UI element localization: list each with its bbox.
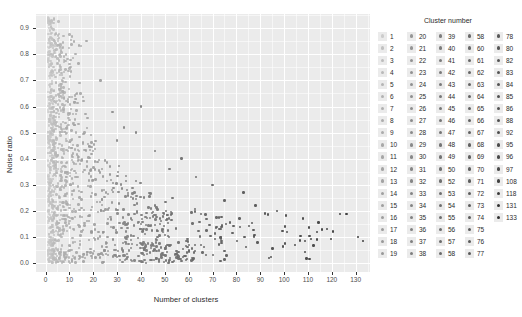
legend-item[interactable]: 70 bbox=[465, 163, 494, 175]
legend-item[interactable]: 47 bbox=[436, 127, 465, 139]
legend-item[interactable]: 40 bbox=[436, 42, 465, 54]
legend-item[interactable]: 95 bbox=[494, 139, 522, 151]
legend-item[interactable]: 8 bbox=[378, 115, 407, 127]
legend-item[interactable]: 76 bbox=[465, 236, 494, 248]
legend-item[interactable]: 27 bbox=[407, 115, 436, 127]
legend-item[interactable]: 131 bbox=[494, 199, 522, 211]
legend-item[interactable]: 49 bbox=[436, 151, 465, 163]
legend-item[interactable]: 32 bbox=[407, 175, 436, 187]
legend-item[interactable]: 80 bbox=[494, 42, 522, 54]
legend-item[interactable]: 62 bbox=[465, 66, 494, 78]
legend-item[interactable]: 48 bbox=[436, 139, 465, 151]
legend-item[interactable]: 2 bbox=[378, 42, 407, 54]
legend-item[interactable]: 58 bbox=[465, 30, 494, 42]
legend-item[interactable]: 61 bbox=[465, 54, 494, 66]
legend-item[interactable]: 56 bbox=[436, 224, 465, 236]
legend-item[interactable]: 1 bbox=[378, 30, 407, 42]
legend-item[interactable]: 21 bbox=[407, 42, 436, 54]
legend-item[interactable]: 14 bbox=[378, 187, 407, 199]
legend-item[interactable]: 12 bbox=[378, 163, 407, 175]
legend-column: 58606162636465666768697071727374757677 bbox=[465, 30, 494, 260]
legend-item[interactable]: 69 bbox=[465, 151, 494, 163]
legend-item[interactable]: 23 bbox=[407, 66, 436, 78]
legend-item[interactable]: 37 bbox=[407, 236, 436, 248]
legend-item[interactable]: 65 bbox=[465, 103, 494, 115]
legend-item[interactable]: 50 bbox=[436, 163, 465, 175]
legend-item[interactable]: 3 bbox=[378, 54, 407, 66]
legend-item[interactable]: 75 bbox=[465, 224, 494, 236]
legend-item[interactable]: 18 bbox=[378, 236, 407, 248]
legend-item[interactable]: 5 bbox=[378, 78, 407, 90]
legend-item[interactable]: 17 bbox=[378, 224, 407, 236]
legend-item[interactable]: 13 bbox=[378, 175, 407, 187]
legend-item[interactable]: 6 bbox=[378, 90, 407, 102]
legend-item[interactable]: 63 bbox=[465, 78, 494, 90]
legend-item[interactable]: 83 bbox=[494, 66, 522, 78]
legend-item[interactable]: 26 bbox=[407, 103, 436, 115]
legend-item[interactable]: 66 bbox=[465, 115, 494, 127]
legend-item[interactable]: 54 bbox=[436, 199, 465, 211]
legend-item[interactable]: 43 bbox=[436, 78, 465, 90]
legend-item[interactable]: 72 bbox=[465, 187, 494, 199]
legend-item[interactable]: 35 bbox=[407, 211, 436, 223]
legend-item[interactable]: 82 bbox=[494, 54, 522, 66]
legend-item[interactable]: 29 bbox=[407, 139, 436, 151]
legend-item[interactable]: 55 bbox=[436, 211, 465, 223]
legend-item[interactable]: 24 bbox=[407, 78, 436, 90]
legend-item[interactable]: 20 bbox=[407, 30, 436, 42]
legend-item[interactable]: 28 bbox=[407, 127, 436, 139]
legend-item[interactable]: 9 bbox=[378, 127, 407, 139]
legend-item[interactable]: 97 bbox=[494, 163, 522, 175]
legend-item[interactable]: 68 bbox=[465, 139, 494, 151]
legend-item[interactable]: 57 bbox=[436, 236, 465, 248]
legend-item[interactable]: 64 bbox=[465, 90, 494, 102]
legend-item[interactable]: 10 bbox=[378, 139, 407, 151]
legend-item[interactable]: 85 bbox=[494, 90, 522, 102]
legend-item[interactable]: 60 bbox=[465, 42, 494, 54]
legend-item[interactable]: 52 bbox=[436, 175, 465, 187]
legend-item[interactable]: 44 bbox=[436, 90, 465, 102]
legend-item[interactable]: 77 bbox=[465, 248, 494, 260]
legend-item[interactable]: 74 bbox=[465, 211, 494, 223]
legend-item[interactable]: 15 bbox=[378, 199, 407, 211]
legend-item[interactable]: 96 bbox=[494, 151, 522, 163]
legend-item[interactable]: 31 bbox=[407, 163, 436, 175]
legend-item[interactable]: 19 bbox=[378, 248, 407, 260]
legend-item[interactable]: 58 bbox=[436, 248, 465, 260]
legend-item-label: 71 bbox=[477, 178, 484, 185]
data-point bbox=[123, 126, 125, 128]
legend-item[interactable]: 22 bbox=[407, 54, 436, 66]
legend-item[interactable]: 118 bbox=[494, 187, 522, 199]
legend-item[interactable]: 7 bbox=[378, 103, 407, 115]
legend-item[interactable]: 84 bbox=[494, 78, 522, 90]
legend-item[interactable]: 4 bbox=[378, 66, 407, 78]
data-point bbox=[220, 242, 222, 244]
legend-item[interactable]: 11 bbox=[378, 151, 407, 163]
data-point bbox=[141, 230, 143, 232]
legend-item[interactable]: 73 bbox=[465, 199, 494, 211]
legend-item[interactable]: 108 bbox=[494, 175, 522, 187]
legend-item[interactable]: 25 bbox=[407, 90, 436, 102]
data-point bbox=[132, 235, 134, 237]
legend-key-swatch bbox=[494, 80, 503, 89]
legend-item[interactable]: 30 bbox=[407, 151, 436, 163]
legend-item[interactable]: 38 bbox=[407, 248, 436, 260]
legend-item[interactable]: 45 bbox=[436, 103, 465, 115]
legend-item[interactable]: 16 bbox=[378, 211, 407, 223]
legend-item[interactable]: 39 bbox=[436, 30, 465, 42]
legend-item[interactable]: 33 bbox=[407, 187, 436, 199]
legend-item[interactable]: 88 bbox=[494, 115, 522, 127]
legend-item[interactable]: 78 bbox=[494, 30, 522, 42]
legend-item[interactable]: 42 bbox=[436, 66, 465, 78]
legend-item[interactable]: 67 bbox=[465, 127, 494, 139]
legend-item[interactable]: 46 bbox=[436, 115, 465, 127]
legend-item[interactable]: 41 bbox=[436, 54, 465, 66]
legend-item[interactable]: 53 bbox=[436, 187, 465, 199]
legend-item[interactable]: 92 bbox=[494, 127, 522, 139]
legend-item[interactable]: 71 bbox=[465, 175, 494, 187]
legend-item[interactable]: 133 bbox=[494, 211, 522, 223]
legend-item[interactable]: 34 bbox=[407, 199, 436, 211]
legend-item[interactable]: 86 bbox=[494, 103, 522, 115]
legend-item[interactable]: 36 bbox=[407, 224, 436, 236]
x-axis-tick-mark bbox=[165, 272, 166, 275]
